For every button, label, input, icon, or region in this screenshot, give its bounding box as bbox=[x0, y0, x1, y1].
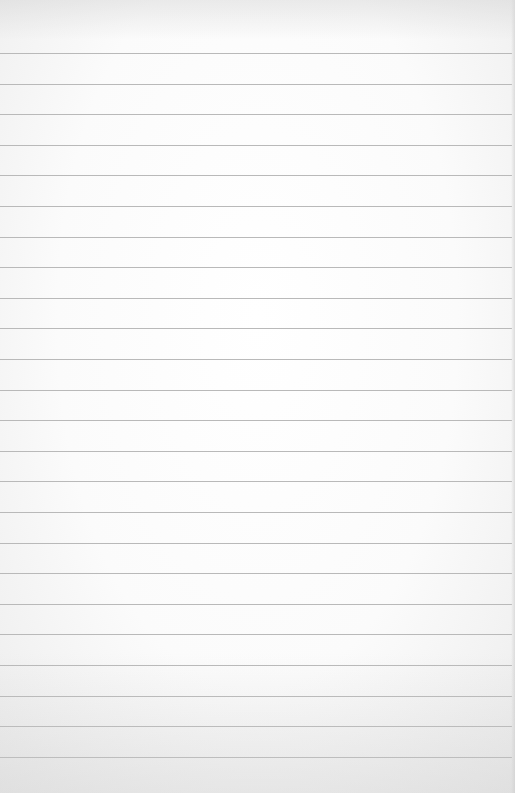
lined-paper-sheet bbox=[0, 0, 515, 793]
ruled-line bbox=[0, 359, 512, 360]
ruled-line bbox=[0, 634, 512, 635]
ruled-line bbox=[0, 726, 512, 727]
ruled-line bbox=[0, 451, 512, 452]
ruled-line bbox=[0, 328, 512, 329]
ruled-line bbox=[0, 145, 512, 146]
ruled-line bbox=[0, 206, 512, 207]
ruled-line bbox=[0, 696, 512, 697]
ruled-line bbox=[0, 298, 512, 299]
ruled-line bbox=[0, 53, 512, 54]
ruled-line bbox=[0, 543, 512, 544]
ruled-line bbox=[0, 665, 512, 666]
ruled-line bbox=[0, 573, 512, 574]
ruled-line bbox=[0, 114, 512, 115]
ruled-line bbox=[0, 237, 512, 238]
ruled-line bbox=[0, 512, 512, 513]
ruled-line bbox=[0, 84, 512, 85]
ruled-line bbox=[0, 390, 512, 391]
ruled-line bbox=[0, 481, 512, 482]
ruled-line bbox=[0, 175, 512, 176]
ruled-line bbox=[0, 420, 512, 421]
ruled-line bbox=[0, 604, 512, 605]
ruled-line bbox=[0, 757, 512, 758]
paper-edge bbox=[511, 0, 515, 793]
ruled-line bbox=[0, 267, 512, 268]
